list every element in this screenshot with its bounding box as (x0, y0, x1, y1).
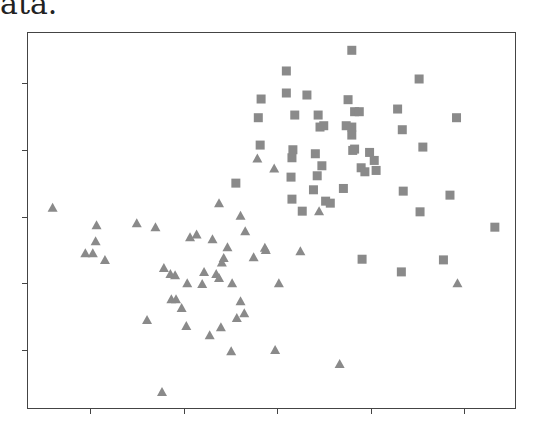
square-marker (490, 223, 499, 232)
square-marker (348, 146, 357, 155)
square-marker (302, 91, 311, 100)
square-marker (347, 131, 356, 140)
square-marker (282, 89, 291, 98)
square-marker (398, 125, 407, 134)
square-marker (358, 255, 367, 264)
square-marker (415, 74, 424, 83)
squares-series (231, 46, 499, 277)
square-marker (397, 267, 406, 276)
triangle-marker (142, 315, 152, 324)
square-marker (347, 46, 356, 55)
triangle-marker (177, 303, 187, 312)
triangle-marker (252, 153, 262, 162)
triangle-marker (199, 267, 209, 276)
square-marker (314, 111, 323, 120)
square-marker (298, 207, 307, 216)
square-marker (360, 167, 369, 176)
square-marker (452, 113, 461, 122)
triangle-marker (314, 206, 324, 215)
triangle-marker (226, 346, 236, 355)
triangle-marker (232, 313, 242, 322)
triangle-marker (236, 211, 246, 220)
triangle-marker (182, 278, 192, 287)
square-marker (282, 66, 291, 75)
triangle-marker (216, 322, 226, 331)
square-marker (309, 185, 318, 194)
square-marker (344, 95, 353, 104)
scatter-plot (0, 0, 536, 424)
triangle-marker (197, 279, 207, 288)
square-marker (365, 148, 374, 157)
triangle-marker (335, 359, 345, 368)
square-marker (313, 171, 322, 180)
square-marker (416, 207, 425, 216)
triangle-marker (270, 345, 280, 354)
triangle-marker (236, 296, 246, 305)
triangle-marker (207, 234, 217, 243)
square-marker (372, 166, 381, 175)
triangle-marker (240, 226, 250, 235)
square-marker (370, 156, 379, 165)
triangle-marker (205, 330, 215, 339)
square-marker (339, 184, 348, 193)
triangle-marker (249, 252, 259, 261)
triangle-marker (274, 278, 284, 287)
square-marker (347, 123, 356, 132)
square-marker (287, 153, 296, 162)
triangle-marker (452, 278, 462, 287)
triangle-marker (92, 220, 102, 229)
triangle-marker (48, 203, 58, 212)
triangle-marker (157, 387, 167, 396)
square-marker (317, 161, 326, 170)
square-marker (287, 195, 296, 204)
square-marker (290, 111, 299, 120)
triangle-marker (227, 278, 237, 287)
triangle-marker (295, 246, 305, 255)
square-marker (257, 95, 266, 104)
square-marker (399, 187, 408, 196)
triangle-marker (239, 308, 249, 317)
triangle-marker (159, 263, 169, 272)
square-marker (287, 173, 296, 182)
triangle-marker (132, 218, 142, 227)
triangle-marker (150, 222, 160, 231)
square-marker (326, 199, 335, 208)
square-marker (231, 179, 240, 188)
triangle-marker (214, 198, 224, 207)
triangle-marker (181, 321, 191, 330)
triangle-marker (222, 242, 232, 251)
square-marker (311, 149, 320, 158)
triangle-marker (91, 236, 101, 245)
triangle-marker (100, 255, 110, 264)
triangle-marker (192, 230, 202, 239)
triangle-marker (269, 163, 279, 172)
square-marker (319, 121, 328, 130)
square-marker (288, 145, 297, 154)
square-marker (445, 191, 454, 200)
square-marker (256, 141, 265, 150)
square-marker (254, 113, 263, 122)
triangle-marker (88, 248, 98, 257)
square-marker (393, 105, 402, 114)
square-marker (418, 143, 427, 152)
square-marker (355, 107, 364, 116)
square-marker (439, 255, 448, 264)
